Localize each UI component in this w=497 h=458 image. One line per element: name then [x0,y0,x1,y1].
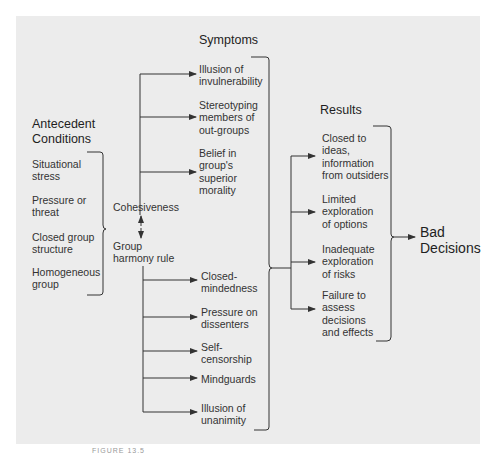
antecedent-item: Homogeneous group [32,266,100,291]
bad-decisions-label: Bad Decisions [420,224,481,256]
figure-caption: FIGURE 13.5 [92,447,145,454]
cohesiveness-label: Cohesiveness [113,201,179,213]
symptom-item: Closed- mindedness [201,270,258,295]
symptom-item: Stereotyping members of out-groups [199,99,258,136]
result-item: Limited exploration of options [322,193,373,230]
symptom-item: Belief in group's superior morality [199,147,237,196]
antecedent-title: Antecedent Conditions [32,117,95,146]
result-item: Closed to ideas, information from outsid… [322,132,389,181]
symptom-item: Self- censorship [201,341,252,366]
antecedent-item: Pressure or threat [32,194,86,219]
symptom-item: Mindguards [201,373,256,385]
result-item: Inadequate exploration of risks [322,243,375,280]
symptom-item: Illusion of unanimity [201,402,246,427]
antecedent-item: Situational stress [32,158,81,183]
group-harmony-label: Group harmony rule [113,240,174,265]
symptoms-title: Symptoms [199,33,258,48]
results-title: Results [320,103,362,118]
antecedent-item: Closed group structure [32,231,94,256]
symptom-item: Pressure on dissenters [201,306,258,331]
result-item: Failure to assess decisions and effects [322,289,373,338]
symptom-item: Illusion of invulnerability [199,63,263,88]
